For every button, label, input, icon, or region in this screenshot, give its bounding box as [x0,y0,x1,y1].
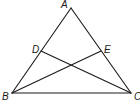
label-e: E [104,44,111,55]
label-c: C [134,91,140,102]
segment-ab [12,8,71,93]
segments [12,8,131,93]
triangle-diagram: A B C D E [0,0,140,104]
vertex-labels: A B C D E [2,0,140,102]
label-a: A [60,0,68,10]
segment-eb [12,51,101,93]
label-d: D [32,44,39,55]
label-b: B [2,91,9,102]
segment-dc [41,51,131,93]
